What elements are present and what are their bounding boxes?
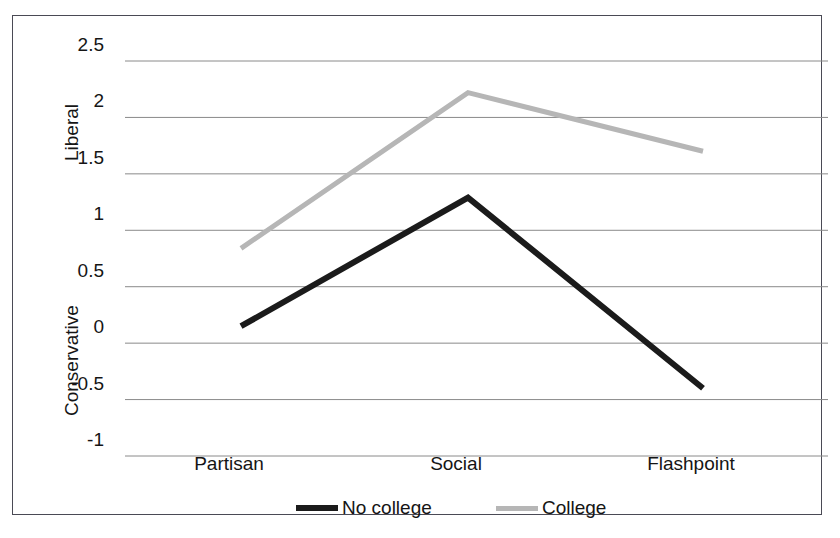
legend-swatch-college xyxy=(496,506,538,511)
y-axis-label-liberal: Liberal xyxy=(61,104,83,161)
series-lines xyxy=(241,93,703,389)
x-category-label: Social xyxy=(386,453,526,475)
legend-item-no-college[interactable]: No college xyxy=(296,497,432,519)
x-category-label: Partisan xyxy=(159,453,299,475)
y-tick-label: 2.5 xyxy=(49,34,104,56)
chart-frame: 2.521.510.50-0.5-1 PartisanSocialFlashpo… xyxy=(12,15,822,515)
y-tick-label: 0.5 xyxy=(49,260,104,282)
legend-label-college: College xyxy=(542,497,606,519)
y-axis-label-conservative: Conservative xyxy=(61,305,83,416)
legend-label-no-college: No college xyxy=(342,497,432,519)
y-tick-label: 1 xyxy=(49,203,104,225)
legend-item-college[interactable]: College xyxy=(496,497,606,519)
series-line-college xyxy=(241,93,703,249)
x-category-label: Flashpoint xyxy=(621,453,761,475)
gridlines xyxy=(125,61,828,456)
y-tick-label: -1 xyxy=(49,429,104,451)
legend-swatch-no-college xyxy=(296,505,338,511)
series-line-no-college xyxy=(241,198,703,389)
